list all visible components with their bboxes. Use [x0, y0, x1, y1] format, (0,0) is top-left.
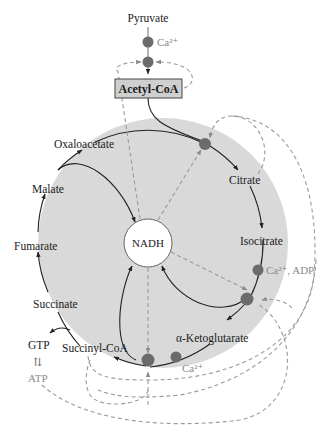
citrate-label: Citrate: [229, 174, 260, 186]
citrate-synthase-dot: [199, 138, 211, 150]
akgdh-enzyme-dot: [142, 354, 155, 367]
pdh-enzyme-dot: [143, 57, 154, 68]
acetyl-coa-label: Acetyl-CoA: [119, 82, 179, 96]
nadh-label: NADH: [132, 237, 164, 249]
fumarate-label: Fumarate: [14, 240, 57, 252]
akgdh-activation-dot: [171, 352, 182, 363]
idh-activation-dot: [253, 265, 264, 276]
oxaloacetate-label: Oxaloacetate: [54, 138, 114, 150]
gtp-atp-exchange-icon: ⇅: [33, 356, 43, 368]
citric-acid-cycle-diagram: NADH Pyruvate Ca²⁺ Acetyl-CoA Citrate Is…: [0, 0, 336, 436]
idh-enzyme-dot: [241, 293, 254, 306]
atp-label: ATP: [28, 372, 48, 384]
pdh-activator-label: Ca²⁺: [157, 36, 179, 48]
isocitrate-label: Isocitrate: [240, 235, 283, 247]
succinate-label: Succinate: [33, 298, 78, 310]
succinyl-coa-label: Succinyl-CoA: [62, 342, 128, 355]
malate-label: Malate: [32, 183, 64, 195]
gtp-label: GTP: [28, 339, 50, 351]
alpha-ketoglutarate-label: α-Ketoglutarate: [176, 332, 248, 345]
idh-activators-label: Ca²⁺, ADP: [266, 264, 314, 276]
akgdh-activator-label: Ca²⁺: [182, 362, 204, 374]
pdh-activation-dot: [143, 37, 154, 48]
pyruvate-label: Pyruvate: [128, 12, 169, 25]
